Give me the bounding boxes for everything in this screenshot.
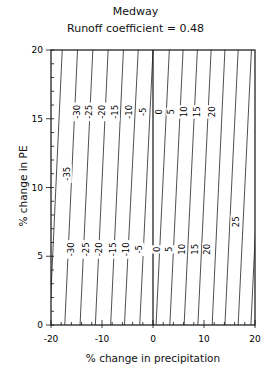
contour-label: 5 <box>164 247 174 252</box>
contour-line <box>111 50 124 325</box>
contour-line <box>198 50 211 325</box>
x-tick-label: -10 <box>95 334 110 344</box>
contour-line <box>95 50 108 325</box>
contour-label: 10 <box>177 244 187 255</box>
contour-label: -30 <box>66 242 76 256</box>
contour-line <box>80 50 93 325</box>
contour-line <box>170 50 183 325</box>
contour-label: -10 <box>121 242 131 256</box>
contour-label: -35 <box>62 167 72 181</box>
y-tick-label: 10 <box>32 183 44 193</box>
y-axis-label: % change in PE <box>17 131 29 241</box>
contour-line <box>184 50 197 325</box>
x-tick-label: -20 <box>44 334 59 344</box>
contour-line <box>212 50 225 325</box>
contour-label: 15 <box>192 106 202 117</box>
contour-label: 15 <box>190 244 200 255</box>
y-tick-label: 5 <box>37 251 43 261</box>
contour-line <box>124 50 138 325</box>
y-tick-label: 20 <box>32 45 44 55</box>
contour-label: 20 <box>207 106 217 117</box>
y-tick-label: 0 <box>37 320 43 330</box>
contour-label: 0 <box>152 247 162 252</box>
contour-label: -20 <box>94 242 104 256</box>
contour-label: -15 <box>108 242 118 256</box>
x-tick-label: 10 <box>198 334 210 344</box>
contour-label: -5 <box>138 108 148 116</box>
contour-label: 5 <box>166 109 176 114</box>
contour-label: -15 <box>110 105 120 119</box>
contour-label: 25 <box>231 216 241 227</box>
y-tick-label: 15 <box>32 114 43 124</box>
x-tick-label: 0 <box>150 334 156 344</box>
x-tick-label: 20 <box>249 334 261 344</box>
contour-label: -25 <box>84 105 94 119</box>
contour-line <box>65 50 78 325</box>
contour-label: 20 <box>202 244 212 255</box>
contour-label: 0 <box>154 109 164 114</box>
contour-plot: -35-30-25-20-15-10-505101520-30-25-20-15… <box>0 0 271 383</box>
contour-line <box>238 50 251 325</box>
contour-lines <box>34 50 264 325</box>
contour-label: -20 <box>97 105 107 119</box>
contour-line <box>251 50 264 325</box>
contour-line <box>225 50 238 325</box>
contour-label: -5 <box>134 245 144 253</box>
contour-line <box>140 50 153 325</box>
contour-label: -30 <box>72 105 82 119</box>
contour-label: -25 <box>81 242 91 256</box>
contour-label: 10 <box>179 106 189 117</box>
x-axis-label: % change in precipitation <box>51 352 255 364</box>
contour-label: -10 <box>124 105 134 119</box>
contour-line <box>156 50 169 325</box>
